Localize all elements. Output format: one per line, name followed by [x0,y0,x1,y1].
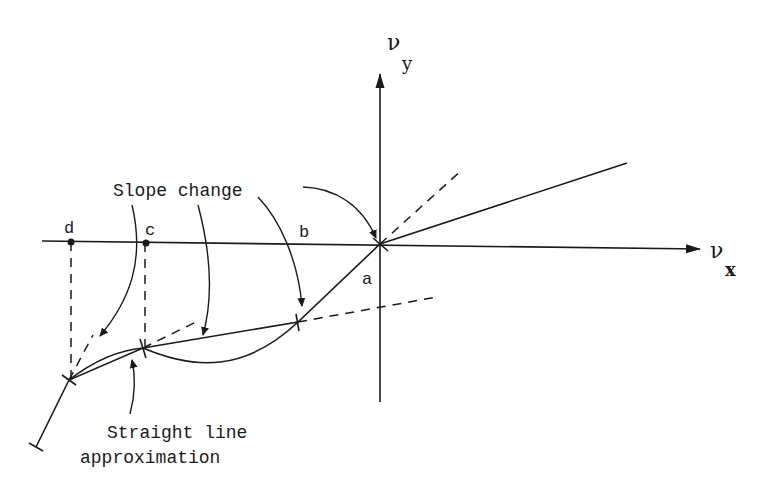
straight-line-label-2: approximation [80,448,220,468]
smooth-actual-curve [69,322,298,380]
y-axis-subscript: y [401,53,413,74]
y-axis-label: ν [387,30,400,55]
x-axis-subscript: x [725,259,736,280]
x-axis-label: ν [710,238,723,263]
dash-extension-b [298,297,437,322]
piecewise-linear-curve [29,163,627,451]
slope-change-arrows [100,187,376,336]
x-axis [42,241,700,249]
point-label-a: a [362,270,372,289]
dash-extension-d [69,335,93,380]
point-c-dot [143,240,150,247]
arrow-to-straight-line [130,360,134,414]
point-label-b: b [299,223,309,242]
arrow-to-d [100,205,137,336]
point-d-dot [68,239,75,246]
arrow-to-a [303,187,376,238]
arrow-to-c [198,205,209,335]
straight-line-label-1: Straight line [107,423,247,443]
slope-change-label: Slope change [113,181,243,201]
arrow-to-b [258,197,302,306]
dash-extension-a [380,169,463,244]
point-label-d: d [64,219,74,238]
point-label-c: c [145,221,155,240]
knee-ticks [62,238,388,385]
piecewise-linear-approximation-diagram: ν y ν x d c b a Slope change [0,0,764,498]
